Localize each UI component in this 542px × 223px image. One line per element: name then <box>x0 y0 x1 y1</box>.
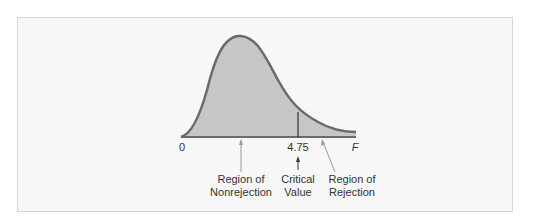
rejection-label: Region of Rejection <box>328 173 375 199</box>
origin-label: 0 <box>179 141 185 154</box>
rejection-arrow <box>323 142 335 172</box>
nonrejection-arrowhead-icon <box>239 139 243 145</box>
critical-arrowhead-icon <box>296 156 300 162</box>
f-variable-label: F <box>352 141 359 154</box>
critical-value-label: Critical Value <box>281 173 315 199</box>
critical-value-tick-label: 4.75 <box>287 141 308 154</box>
nonrejection-label: Region of Nonrejection <box>210 173 272 199</box>
